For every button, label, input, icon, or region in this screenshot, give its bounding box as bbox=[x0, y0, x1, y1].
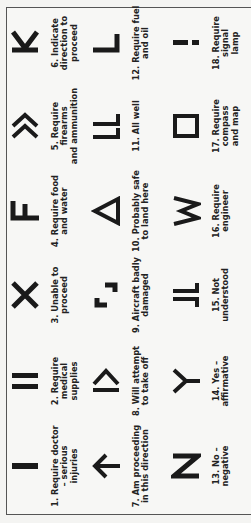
signal-label: 13. No – negative bbox=[212, 424, 231, 508]
jl-icon bbox=[169, 253, 203, 337]
signal-label: 6. Indicate direction to proceed bbox=[51, 1, 79, 85]
broken-square-icon bbox=[89, 253, 123, 337]
k-icon bbox=[8, 1, 42, 85]
signal-label: 16. Require engineer bbox=[212, 169, 231, 253]
signal-label: 9. Aircraft badly damaged bbox=[132, 253, 151, 337]
signal-label: 12. Require fuel and oil bbox=[132, 1, 151, 85]
signal-label: 5. Require firearms and ammunition bbox=[51, 84, 79, 168]
f-icon bbox=[8, 169, 42, 253]
signal-6: 6. Indicate direction to proceed bbox=[6, 1, 86, 85]
signal-label: 11. All well bbox=[132, 84, 141, 168]
signal-label: 7. Am proceeding in this direction bbox=[132, 424, 151, 508]
signal-label: 2. Require medical supplies bbox=[51, 339, 79, 423]
signal-label: 17. Require compass and map bbox=[212, 84, 240, 168]
double-chevron-icon bbox=[8, 84, 42, 168]
y-icon bbox=[169, 339, 203, 423]
signal-9: 9. Aircraft badly damaged bbox=[87, 253, 167, 337]
signal-17: 17. Require compass and map bbox=[167, 84, 247, 168]
signal-2: 2. Require medical supplies bbox=[6, 339, 86, 423]
square-icon bbox=[169, 84, 203, 168]
signal-label: 15. Not understood bbox=[212, 253, 231, 337]
l-icon bbox=[89, 1, 123, 85]
signal-label: 10. Probably safe to land here bbox=[132, 169, 151, 253]
signal-8: 8. Will attempt to take off bbox=[87, 339, 167, 423]
signal-5: 5. Require firearms and ammunition bbox=[6, 84, 86, 168]
signal-3: 3. Unable to proceed bbox=[6, 253, 86, 337]
signal-18: 18. Require signal lamp bbox=[167, 1, 247, 85]
signal-label: 4. Require food and water bbox=[51, 169, 70, 253]
double-bar-icon bbox=[8, 339, 42, 423]
signal-chart: 1. Require doctor – serious injuries 2. … bbox=[0, 0, 251, 523]
signal-4: 4. Require food and water bbox=[6, 169, 86, 253]
bar-chevron-icon bbox=[89, 339, 123, 423]
single-bar-icon bbox=[8, 424, 42, 508]
signal-label: 1. Require doctor – serious injuries bbox=[51, 424, 79, 508]
triangle-icon bbox=[89, 169, 123, 253]
signal-label: 14. Yes – affirmative bbox=[212, 339, 231, 423]
signal-14: 14. Yes – affirmative bbox=[167, 339, 247, 423]
arrow-icon bbox=[89, 424, 123, 508]
signal-label: 3. Unable to proceed bbox=[51, 253, 70, 337]
signal-label: 8. Will attempt to take off bbox=[132, 339, 151, 423]
n-icon bbox=[169, 424, 203, 508]
signal-11: 11. All well bbox=[87, 84, 167, 168]
signal-7: 7. Am proceeding in this direction bbox=[87, 424, 167, 508]
double-l-icon bbox=[89, 84, 123, 168]
x-icon bbox=[8, 253, 42, 337]
signal-16: 16. Require engineer bbox=[167, 169, 247, 253]
signal-10: 10. Probably safe to land here bbox=[87, 169, 167, 253]
signal-13: 13. No – negative bbox=[167, 424, 247, 508]
signal-12: 12. Require fuel and oil bbox=[87, 1, 167, 85]
dashes-icon bbox=[169, 1, 203, 85]
signal-label: 18. Require signal lamp bbox=[212, 1, 240, 85]
signal-1: 1. Require doctor – serious injuries bbox=[6, 424, 86, 508]
signal-15: 15. Not understood bbox=[167, 253, 247, 337]
w-icon bbox=[169, 169, 203, 253]
